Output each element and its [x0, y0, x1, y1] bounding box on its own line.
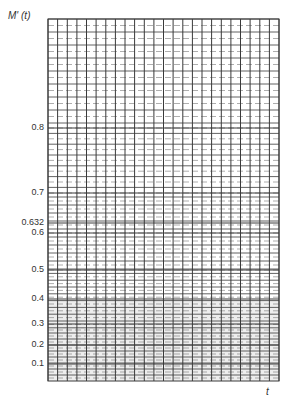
y-axis-title: M' (t)	[8, 10, 30, 21]
y-tick-label: 0.2	[31, 339, 44, 349]
y-tick-label: 0.8	[31, 122, 44, 132]
y-tick-label: 0.3	[31, 318, 44, 328]
y-tick-label: 0.1	[31, 358, 44, 368]
y-tick-label: 0.7	[31, 187, 44, 197]
probability-plot-paper: M' (t) t 0.80.70.6320.60.50.40.30.20.1	[0, 0, 291, 408]
y-tick-label: 0.632	[21, 217, 44, 227]
y-tick-label: 0.5	[31, 264, 44, 274]
y-tick-label: 0.6	[31, 227, 44, 237]
x-axis-title: t	[266, 386, 269, 397]
y-tick-label: 0.4	[31, 293, 44, 303]
